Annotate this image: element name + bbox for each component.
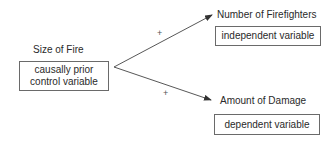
cause-title: Size of Fire bbox=[33, 44, 84, 56]
upper-box: independent variable bbox=[215, 26, 321, 46]
cause-box-line-2: control variable bbox=[30, 76, 98, 88]
lower-sign: + bbox=[163, 89, 168, 98]
cause-box: causally prior control variable bbox=[19, 61, 109, 91]
upper-title: Number of Firefighters bbox=[217, 9, 316, 21]
lower-box: dependent variable bbox=[214, 114, 320, 135]
upper-box-label: independent variable bbox=[222, 30, 315, 42]
arrow-to-firefighters bbox=[114, 15, 212, 67]
lower-title: Amount of Damage bbox=[220, 95, 306, 107]
cause-box-line-1: causally prior bbox=[35, 64, 94, 76]
lower-box-label: dependent variable bbox=[224, 119, 309, 131]
upper-sign: + bbox=[157, 29, 162, 38]
